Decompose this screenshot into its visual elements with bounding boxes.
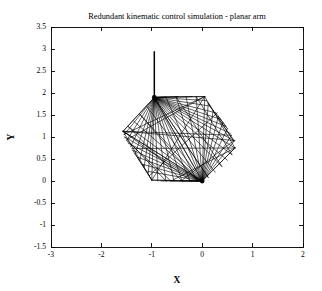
y-tick-label: 1.5: [37, 110, 47, 119]
x-tick-label: -2: [98, 250, 105, 259]
x-tick-label: 2: [301, 250, 305, 259]
arm-link-segment: [127, 97, 155, 140]
arm-trace-layer: [123, 51, 235, 183]
x-axis-label: X: [174, 275, 181, 285]
y-tick-label: 3: [42, 44, 46, 53]
y-tick-label: 3.5: [37, 22, 47, 31]
y-tick-label: -1.5: [34, 242, 46, 251]
y-tick-label: 2.5: [37, 66, 47, 75]
plot-svg: Redundant kinematic control simulation -…: [0, 0, 322, 291]
y-axis-label: Y: [6, 133, 16, 140]
y-axis-ticks: 3.532.521.510.50-0.5-1-1.5: [34, 22, 303, 251]
y-tick-label: 0.5: [37, 154, 47, 163]
x-tick-label: 1: [251, 250, 255, 259]
arm-link-segment: [135, 97, 154, 153]
arm-boundary-segment: [152, 180, 202, 181]
x-tick-label: 0: [200, 250, 204, 259]
plot-title: Redundant kinematic control simulation -…: [88, 12, 266, 21]
y-tick-label: -0.5: [34, 198, 46, 207]
end-effector-joint-hub: [200, 179, 205, 184]
arm-boundary-segment: [154, 97, 204, 98]
y-tick-label: -1: [40, 220, 47, 229]
figure-canvas: Redundant kinematic control simulation -…: [0, 0, 322, 291]
y-tick-label: 0: [42, 176, 46, 185]
shoulder-joint-hub: [152, 95, 157, 100]
x-axis-ticks: -3-2-1012: [48, 27, 305, 259]
x-tick-label: -3: [48, 250, 55, 259]
x-tick-label: -1: [149, 250, 156, 259]
y-tick-label: 1: [42, 132, 46, 141]
arm-boundary-segment: [123, 97, 154, 131]
arm-link-segment: [154, 97, 221, 119]
arm-link-segment: [186, 97, 202, 181]
y-tick-label: 2: [42, 88, 46, 97]
